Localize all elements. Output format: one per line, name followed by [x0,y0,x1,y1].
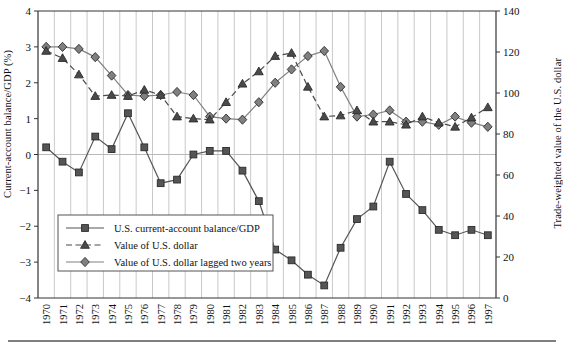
y-axis-ticks-left: 43210−1−2−3−4 [19,5,38,304]
svg-text:0: 0 [503,292,509,304]
y-axis-label-left: Current-account balance/GDP (%) [2,50,13,198]
y-axis-ticks-right: 140120100806040200 [496,5,520,304]
svg-text:1982: 1982 [237,304,248,325]
svg-text:20: 20 [503,251,515,263]
svg-text:40: 40 [503,210,515,222]
svg-text:140: 140 [503,5,520,17]
chart-container: Current-account balance/GDP (%) Trade-we… [0,0,564,348]
chart-plot: 43210−1−2−3−4 140120100806040200 1970197… [0,0,564,348]
svg-text:3: 3 [26,41,32,53]
svg-text:1992: 1992 [401,304,412,325]
svg-text:1979: 1979 [188,304,199,325]
y-axis-label-right: Trade-weighted value of the U.S. dollar [552,58,563,229]
svg-text:1996: 1996 [466,304,477,325]
svg-text:1985: 1985 [287,304,298,325]
chart-legend[interactable]: U.S. current-account balance/GDPValue of… [58,215,273,271]
svg-text:1993: 1993 [417,304,428,325]
svg-text:4: 4 [26,5,32,17]
svg-text:1972: 1972 [74,304,85,325]
svg-text:1984: 1984 [270,303,281,325]
svg-text:−2: −2 [19,220,31,232]
svg-text:1974: 1974 [107,303,118,325]
svg-text:120: 120 [503,46,520,58]
svg-text:−4: −4 [19,292,31,304]
svg-text:1980: 1980 [205,304,216,325]
svg-text:60: 60 [503,169,515,181]
svg-text:1997: 1997 [483,304,494,325]
svg-text:1983: 1983 [254,304,265,325]
svg-text:1970: 1970 [41,304,52,325]
x-axis-ticks: 1970197119721973197419751976197719781979… [41,303,494,325]
svg-text:U.S. current-account balance/G: U.S. current-account balance/GDP [114,223,260,234]
svg-text:2: 2 [26,77,32,89]
svg-text:1994: 1994 [434,303,445,325]
svg-text:1986: 1986 [303,304,314,325]
svg-text:−1: −1 [19,184,31,196]
svg-text:1973: 1973 [90,304,101,325]
svg-text:1: 1 [26,113,32,125]
svg-text:1987: 1987 [319,304,330,325]
svg-text:1991: 1991 [385,304,396,325]
svg-text:1976: 1976 [139,304,150,325]
svg-text:1990: 1990 [368,304,379,325]
svg-text:Value of U.S. dollar: Value of U.S. dollar [114,240,198,251]
svg-text:1981: 1981 [221,304,232,325]
svg-text:1971: 1971 [58,304,69,325]
svg-text:1989: 1989 [352,304,363,325]
svg-text:1978: 1978 [172,304,183,325]
svg-text:1988: 1988 [336,304,347,325]
svg-text:1995: 1995 [450,304,461,325]
svg-text:Value of U.S. dollar lagged tw: Value of U.S. dollar lagged two years [114,257,271,268]
svg-text:0: 0 [26,149,32,161]
svg-text:100: 100 [503,87,520,99]
svg-text:1977: 1977 [156,304,167,325]
svg-text:1975: 1975 [123,304,134,325]
svg-text:80: 80 [503,128,515,140]
svg-text:−3: −3 [19,256,31,268]
